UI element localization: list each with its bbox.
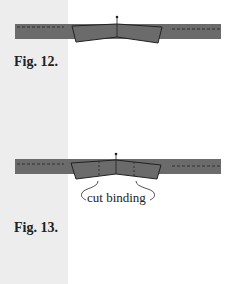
fig13-label: Fig. 13. [14,220,58,236]
diagram-canvas [0,0,227,284]
fig12-label: Fig. 12. [14,54,58,70]
cut-binding-annotation: cut binding [87,190,146,206]
fig12-drawing [15,16,221,43]
